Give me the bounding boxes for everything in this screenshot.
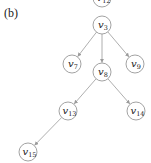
edge-v8-v14 <box>108 79 130 104</box>
edge-v13-v15 <box>35 117 62 145</box>
nodes-group: v12v3v7v8v9v13v14v15 <box>19 0 145 161</box>
edge-v8-v13 <box>74 79 96 104</box>
node-v7: v7 <box>63 55 81 73</box>
tree-diagram: (b) v12v3v7v8v9v13v14v15 <box>0 0 151 163</box>
node-v14: v14 <box>127 102 145 120</box>
node-v15: v15 <box>19 143 37 161</box>
edges-group <box>35 32 130 145</box>
node-v9: v9 <box>126 55 144 73</box>
edge-v3-v9 <box>108 32 129 57</box>
tree-graph: v12v3v7v8v9v13v14v15 <box>0 0 151 163</box>
node-v8: v8 <box>93 63 111 81</box>
node-v3: v3 <box>93 16 111 34</box>
node-v13: v13 <box>59 102 77 120</box>
node-v12: v12 <box>93 0 111 7</box>
edge-v3-v7 <box>78 32 97 56</box>
